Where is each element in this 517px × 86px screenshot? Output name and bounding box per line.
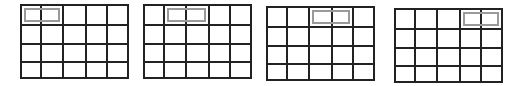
grid-column-line: [394, 8, 396, 83]
grid-column-line: [373, 6, 375, 81]
grid-row-line: [266, 45, 375, 47]
grid-row-line: [143, 4, 252, 6]
grid-row-line: [266, 79, 375, 81]
grid-column-line: [163, 4, 165, 79]
grid-row-line: [20, 24, 129, 26]
grid-column-line: [436, 8, 438, 83]
grid-column-line: [229, 4, 231, 79]
sliding-window-highlight: [167, 8, 206, 22]
grid-column-line: [62, 4, 64, 79]
grid-column-line: [459, 8, 461, 83]
grid-row-line: [394, 8, 503, 10]
grid-row-line: [394, 47, 503, 49]
grid-column-line: [308, 6, 310, 81]
grid-row-line: [394, 81, 503, 83]
grid-row-line: [143, 43, 252, 45]
grid-panel-2: [143, 4, 252, 79]
grid-row-line: [266, 26, 375, 28]
sliding-window-highlight: [312, 10, 350, 24]
grid-column-line: [286, 6, 288, 81]
sliding-window-highlight: [24, 8, 60, 22]
grid-column-line: [106, 4, 108, 79]
sliding-window-highlight: [463, 12, 499, 26]
grid-column-line: [501, 8, 503, 83]
grid-row-line: [394, 65, 503, 67]
grid-panel-3: [266, 6, 375, 81]
grid-row-line: [143, 61, 252, 63]
grid-column-line: [250, 4, 252, 79]
grid-column-line: [85, 4, 87, 79]
grid-row-line: [20, 43, 129, 45]
grid-row-line: [143, 24, 252, 26]
grid-panel-4: [394, 8, 503, 83]
grid-row-line: [266, 63, 375, 65]
grid-panel-1: [20, 4, 129, 79]
grid-column-line: [20, 4, 22, 79]
grid-column-line: [414, 8, 416, 83]
grid-row-line: [266, 6, 375, 8]
grid-row-line: [20, 61, 129, 63]
grid-column-line: [266, 6, 268, 81]
grid-column-line: [127, 4, 129, 79]
grid-column-line: [143, 4, 145, 79]
grid-row-line: [20, 77, 129, 79]
grid-row-line: [20, 4, 129, 6]
grid-row-line: [394, 28, 503, 30]
grid-row-line: [143, 77, 252, 79]
grid-column-line: [208, 4, 210, 79]
grid-column-line: [352, 6, 354, 81]
